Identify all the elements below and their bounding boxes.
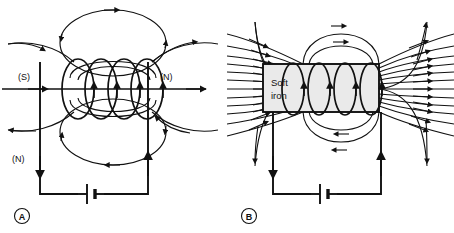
panel-b-letter: B xyxy=(246,212,253,222)
pole-label-south: (S) xyxy=(18,72,30,82)
field-line-arrow-ur xyxy=(152,42,196,62)
panel-a-letter-badge: A xyxy=(15,209,30,224)
panel-a-letter: A xyxy=(19,212,26,222)
panel-b-soft-iron-core-solenoid: Soft iron B xyxy=(227,0,454,233)
coil-current-arrows xyxy=(94,84,163,98)
pole-label-north-lower: (N) xyxy=(12,154,25,164)
panel-b-drawing: Soft iron B xyxy=(227,0,454,233)
field-line-outer-upper-left xyxy=(8,43,74,62)
return-loop-lower-outer xyxy=(303,112,379,142)
battery-symbol-b xyxy=(311,184,337,204)
return-loop-far-right-lower xyxy=(379,89,427,166)
panel-a-drawing: (S) (N) (N) A xyxy=(0,0,227,233)
panel-a-air-core-solenoid: (S) (N) (N) A xyxy=(0,0,227,233)
field-line-outer-lower-left xyxy=(8,112,74,131)
core-label-line2: iron xyxy=(271,90,287,101)
return-loop-upper-outer xyxy=(303,34,379,64)
field-line-outer-upper-right xyxy=(152,43,218,62)
panel-b-letter-badge: B xyxy=(242,209,257,224)
core-label-line1: Soft xyxy=(271,77,288,88)
battery-symbol xyxy=(78,184,104,204)
pole-label-north-right: (N) xyxy=(160,72,173,82)
return-loop-upper-inner xyxy=(309,46,373,64)
flux-lines-right xyxy=(379,34,454,136)
physics-figure: (S) (N) (N) A xyxy=(0,0,454,233)
